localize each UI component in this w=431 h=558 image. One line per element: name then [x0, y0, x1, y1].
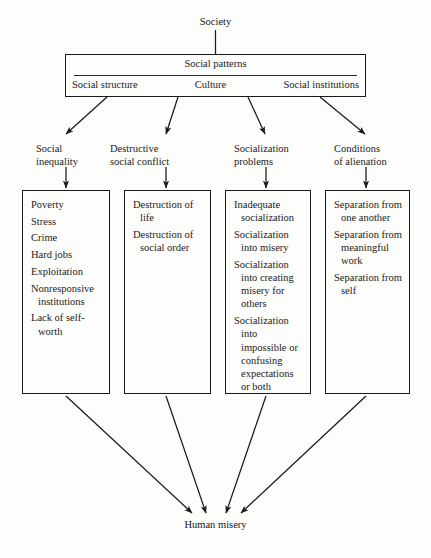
category-label-socialization-problems: Socializationproblems: [234, 142, 320, 168]
effect-item: Crime: [31, 231, 103, 244]
category-label-conditions-of-alienation: Conditionsof alienation: [334, 142, 426, 168]
effect-item: Poverty: [31, 198, 103, 211]
effect-list-social-inequality: PovertyStressCrimeHard jobsExploitationN…: [31, 198, 103, 338]
banner-divider-rule: [74, 75, 357, 76]
effect-list-destructive-social-conflict: Destruction of lifeDestruction of social…: [133, 198, 204, 254]
diagram-canvas: Society Social patterns Social structure…: [0, 0, 431, 558]
effect-item: Hard jobs: [31, 248, 103, 261]
category-label-social-inequality: Socialinequality: [36, 142, 108, 168]
effect-box-conditions-of-alienation: Separation from one anotherSeparation fr…: [325, 190, 410, 394]
edge-box-2-to-misery: [166, 396, 206, 513]
effect-item: Nonresponsive institutions: [31, 282, 103, 308]
component-culture: Culture: [195, 79, 227, 90]
social-patterns-box: Social patterns Social structure Culture…: [65, 54, 366, 97]
edge-banner-to-category-1: [66, 97, 107, 134]
effect-item: Lack of self-worth: [31, 311, 103, 337]
effect-item: Exploitation: [31, 265, 103, 278]
effect-item: Destruction of life: [133, 198, 204, 224]
effect-box-destructive-social-conflict: Destruction of lifeDestruction of social…: [124, 190, 211, 394]
social-patterns-title: Social patterns: [66, 58, 365, 69]
effect-list-conditions-of-alienation: Separation from one anotherSeparation fr…: [334, 198, 403, 297]
effect-list-socialization-problems: Inadequate socializationSocialization in…: [234, 198, 304, 393]
effect-item: Separation from self: [334, 271, 403, 297]
edge-banner-to-category-2: [166, 97, 178, 134]
edge-banner-to-category-4: [320, 97, 365, 134]
effect-item: Socialization into impossible or confusi…: [234, 314, 304, 393]
category-label-destructive-social-conflict: Destructivesocial conflict: [110, 142, 200, 168]
effect-item: Separation from meaningful work: [334, 228, 403, 268]
society-root-label: Society: [0, 16, 431, 29]
social-patterns-components: Social structure Culture Social institut…: [66, 79, 365, 90]
component-social-institutions: Social institutions: [283, 79, 359, 90]
effect-item: Inadequate socialization: [234, 198, 304, 224]
human-misery-label: Human misery: [0, 519, 431, 532]
effect-item: Stress: [31, 215, 103, 228]
effect-item: Destruction of social order: [133, 228, 204, 254]
effect-box-socialization-problems: Inadequate socializationSocialization in…: [225, 190, 311, 394]
effect-item: Socialization into creating misery for o…: [234, 258, 304, 311]
component-social-structure: Social structure: [72, 79, 138, 90]
edge-box-1-to-misery: [66, 396, 192, 513]
edge-box-4-to-misery: [241, 396, 366, 513]
edge-banner-to-category-3: [248, 97, 265, 134]
edge-box-3-to-misery: [226, 396, 266, 513]
effect-item: Separation from one another: [334, 198, 403, 224]
effect-item: Socialization into misery: [234, 228, 304, 254]
effect-box-social-inequality: PovertyStressCrimeHard jobsExploitationN…: [22, 190, 110, 394]
